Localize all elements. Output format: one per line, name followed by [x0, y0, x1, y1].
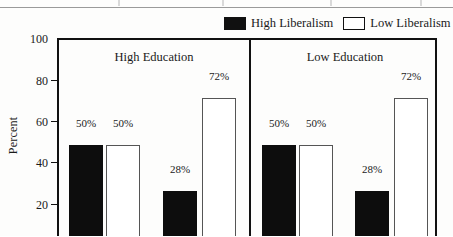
bar-value-label: 50%	[67, 118, 105, 129]
panel-title-high-education: High Education	[59, 51, 249, 64]
y-tick-label-80: 80	[18, 75, 48, 87]
chart-legend: High Liberalism Low Liberalism	[224, 15, 450, 32]
legend-swatch-dark-icon	[224, 17, 246, 30]
bar	[355, 191, 389, 236]
bar	[394, 98, 428, 236]
panel-divider	[249, 40, 251, 236]
bar-value-label: 28%	[161, 164, 199, 175]
legend-label: Low Liberalism	[370, 17, 450, 30]
plot-area: High Education Low Education 50%50%28%72…	[57, 38, 437, 236]
bar-value-label: 50%	[297, 118, 335, 129]
legend-swatch-light-icon	[343, 17, 365, 30]
bar-value-label: 50%	[104, 118, 142, 129]
bar	[106, 145, 140, 237]
legend-label: High Liberalism	[251, 17, 333, 30]
legend-item-high-liberalism: High Liberalism	[224, 17, 333, 30]
panel-title-low-education: Low Education	[251, 51, 439, 64]
bar-value-label: 50%	[260, 118, 298, 129]
legend-item-low-liberalism: Low Liberalism	[343, 17, 450, 30]
y-tick-label-20: 20	[18, 199, 48, 211]
bar	[163, 191, 197, 236]
bar	[299, 145, 333, 237]
y-tick-label-100: 100	[18, 33, 48, 45]
scan-artifact	[420, 0, 422, 6]
scan-artifact	[222, 0, 224, 6]
bar	[202, 98, 236, 236]
chart-figure: High Liberalism Low Liberalism Percent 1…	[0, 0, 453, 236]
y-tick-label-40: 40	[18, 157, 48, 169]
bar	[262, 145, 296, 237]
bar-value-label: 72%	[200, 71, 238, 82]
bar-value-label: 28%	[353, 164, 391, 175]
bar	[69, 145, 103, 237]
scan-artifact	[330, 0, 332, 6]
scan-artifact	[118, 0, 120, 6]
y-tick-label-60: 60	[18, 116, 48, 128]
page-rule	[0, 7, 453, 8]
bar-value-label: 72%	[392, 71, 430, 82]
